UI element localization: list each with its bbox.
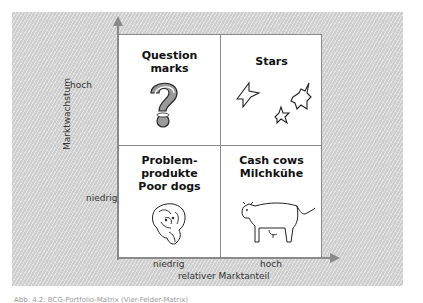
quadrant-cash-cows: Cash cows Milchkühe (221, 146, 322, 258)
y-tick-high: hoch (70, 80, 92, 90)
stars-icon (235, 79, 315, 131)
quadrant-stars: Stars (221, 35, 322, 146)
question-mark-icon (147, 77, 181, 129)
dog-icon (147, 198, 191, 248)
x-axis-arrow-icon (330, 253, 340, 263)
quadrant-title: Stars (221, 55, 322, 68)
y-axis-arrow-icon (113, 16, 123, 26)
quadrant-title: Question marks (119, 49, 220, 75)
quadrant-title: Problem- produkte Poor dogs (119, 154, 220, 193)
x-tick-low: niedrig (153, 259, 184, 269)
quadrant-title: Cash cows Milchkühe (221, 154, 322, 180)
quadrant-question-marks: Question marks (119, 35, 221, 146)
portfolio-matrix: Question marks Stars Problem- produkte P… (118, 34, 322, 258)
quadrant-poor-dogs: Problem- produkte Poor dogs (119, 146, 221, 258)
x-tick-high: hoch (260, 259, 282, 269)
cow-icon (235, 190, 319, 246)
figure-caption: Abb. 4.2: BCG-Portfolio-Matrix (Vier-Fel… (14, 296, 188, 303)
y-axis-label: Marktwachstum (62, 78, 72, 150)
x-axis-label: relativer Marktanteil (178, 271, 270, 281)
y-tick-low: niedrig (86, 193, 117, 203)
